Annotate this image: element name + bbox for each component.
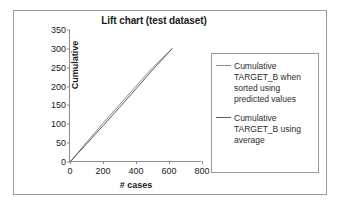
y-tick-label: 200 [40, 82, 66, 92]
x-tick-label: 800 [194, 166, 209, 176]
series-line-1 [70, 48, 172, 162]
plot-area: Cumulative 350 300 250 200 150 100 50 0 … [69, 30, 201, 162]
x-tick-label: 200 [95, 166, 110, 176]
legend-item-label: Cumulative TARGET_B using average [234, 113, 314, 146]
chart-legend: Cumulative TARGET_B when sorted using pr… [211, 53, 319, 173]
y-tick-label: 350 [40, 25, 66, 35]
y-tick-label: 150 [40, 100, 66, 110]
x-tickmark [202, 161, 203, 164]
y-tick-label: 100 [40, 119, 66, 129]
legend-item[interactable]: Cumulative TARGET_B using average [216, 113, 314, 146]
legend-item[interactable]: Cumulative TARGET_B when sorted using pr… [216, 61, 314, 105]
y-tick-label: 0 [40, 157, 66, 167]
plot-lines [70, 30, 202, 162]
x-tick-label: 400 [128, 166, 143, 176]
x-tick-label: 0 [67, 166, 72, 176]
legend-item-label: Cumulative TARGET_B when sorted using pr… [234, 61, 314, 105]
y-tick-label: 250 [40, 63, 66, 73]
legend-line-swatch-icon [216, 61, 231, 70]
chart-title: Lift chart (test dataset) [74, 15, 234, 26]
legend-line-swatch-icon [216, 113, 231, 122]
x-axis-title: # cases [70, 180, 202, 190]
x-tick-label: 600 [161, 166, 176, 176]
y-tick-label: 50 [40, 138, 66, 148]
y-tick-label: 300 [40, 44, 66, 54]
chart-frame: Lift chart (test dataset) Cumulative 350… [13, 10, 327, 195]
